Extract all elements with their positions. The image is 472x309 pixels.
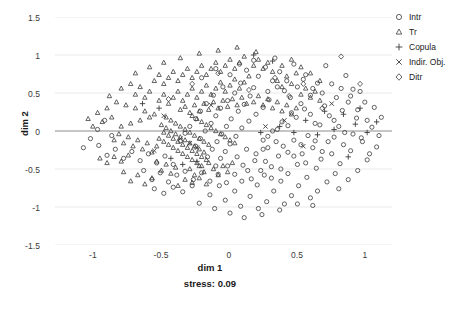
x-tick-label: -1 (73, 250, 113, 260)
legend-item-copula[interactable]: Copula (392, 40, 470, 54)
y-axis-title: dim 2 (19, 94, 30, 154)
y-tick-label: -1 (6, 203, 40, 213)
series-tr (86, 45, 322, 187)
legend-label: Indir. Obj. (409, 57, 445, 67)
legend-item-indir-obj[interactable]: Indir. Obj. (392, 55, 470, 69)
legend-label: Ditr (409, 72, 422, 82)
series-copula (140, 52, 380, 167)
legend-item-ditr[interactable]: Ditr (392, 70, 470, 84)
plus-marker-icon (392, 40, 406, 54)
x-tick-label: 1 (345, 250, 385, 260)
scatter-plot-figure: dim 2 1.5 1 0.5 0 -0.5 -1 -1.5 -1 -0.5 0… (0, 0, 472, 309)
x-tick-label: 0.5 (277, 250, 317, 260)
plot-area (55, 17, 392, 245)
y-tick-label: -1.5 (6, 241, 40, 251)
y-tick-label: 0 (6, 127, 40, 137)
scatter-canvas (55, 17, 392, 245)
diamond-marker-icon (392, 70, 406, 84)
circle-marker-icon (392, 10, 406, 24)
y-tick-label: 1.5 (6, 13, 40, 23)
y-tick-label: 1 (6, 51, 40, 61)
legend-label: Copula (409, 42, 436, 52)
x-tick-label: -0.5 (141, 250, 181, 260)
legend-item-tr[interactable]: Tr (392, 25, 470, 39)
x-axis-title: dim 1 (0, 262, 420, 273)
x-tick-label: 0 (209, 250, 249, 260)
x-marker-icon (392, 55, 406, 69)
y-tick-label: -0.5 (6, 165, 40, 175)
legend-item-intr[interactable]: Intr (392, 10, 470, 24)
y-tick-label: 0.5 (6, 89, 40, 99)
legend-label: Intr (409, 12, 421, 22)
legend-label: Tr (409, 27, 417, 37)
triangle-marker-icon (392, 25, 406, 39)
stress-annotation: stress: 0.09 (0, 278, 420, 289)
legend: Intr Tr Copula Indir. Obj. Ditr (392, 10, 470, 85)
